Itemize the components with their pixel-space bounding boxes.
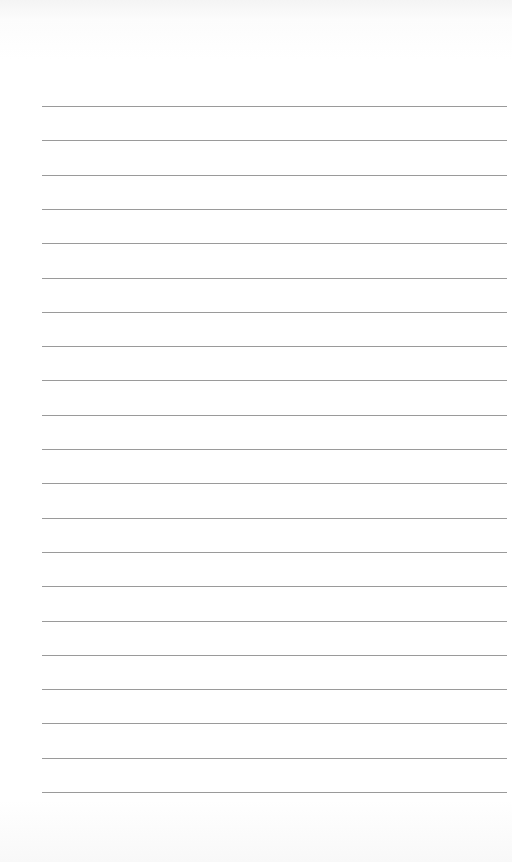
ruled-line [42, 209, 507, 210]
ruled-line [42, 175, 507, 176]
ruled-line [42, 689, 507, 690]
ruled-line [42, 106, 507, 107]
ruled-line [42, 518, 507, 519]
ruled-line [42, 552, 507, 553]
ruled-line [42, 483, 507, 484]
ruled-line [42, 758, 507, 759]
ruled-line [42, 449, 507, 450]
ruled-line [42, 278, 507, 279]
ruled-line [42, 586, 507, 587]
ruled-line [42, 621, 507, 622]
ruled-line [42, 346, 507, 347]
ruled-line [42, 415, 507, 416]
ruled-line [42, 792, 507, 793]
lined-paper-page [0, 0, 512, 862]
ruled-line [42, 140, 507, 141]
ruled-line [42, 655, 507, 656]
ruled-line [42, 312, 507, 313]
ruled-line [42, 380, 507, 381]
ruled-line [42, 723, 507, 724]
ruled-line [42, 243, 507, 244]
